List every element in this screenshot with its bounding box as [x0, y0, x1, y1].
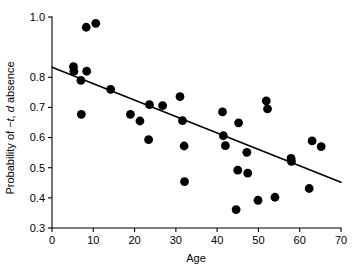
- data-point: [254, 196, 263, 205]
- y-tick-label: 0.3: [30, 222, 45, 234]
- data-points: [69, 19, 326, 214]
- y-tick-label: 1.0: [30, 11, 45, 23]
- x-tick-label: 20: [128, 234, 140, 246]
- data-point: [218, 108, 227, 117]
- data-point: [263, 105, 272, 114]
- data-point: [271, 193, 280, 202]
- data-point: [176, 92, 185, 101]
- y-tick-label: 0.7: [30, 101, 45, 113]
- data-point: [219, 131, 228, 140]
- data-point: [91, 19, 100, 28]
- data-point: [317, 142, 326, 151]
- data-point: [305, 184, 314, 193]
- data-point: [82, 23, 91, 32]
- data-point: [136, 117, 145, 126]
- data-point: [77, 110, 86, 119]
- regression-line: [52, 67, 341, 182]
- x-tick-label: 30: [170, 234, 182, 246]
- x-tick-label: 10: [87, 234, 99, 246]
- data-point: [221, 141, 230, 150]
- data-point: [82, 67, 91, 76]
- data-point: [308, 136, 317, 145]
- x-tick-label: 40: [211, 234, 223, 246]
- data-point: [262, 96, 271, 105]
- data-point: [178, 116, 187, 125]
- y-axis-title: Probability of −t, d absence: [4, 61, 16, 194]
- data-point: [180, 142, 189, 151]
- data-point: [287, 157, 296, 166]
- y-tick-label: 0.8: [30, 71, 45, 83]
- data-point: [180, 177, 189, 186]
- y-axis-tick-labels: 0.30.40.50.60.70.81.0: [30, 11, 45, 234]
- data-point: [242, 148, 251, 157]
- y-tick-label: 0.4: [30, 192, 45, 204]
- x-tick-label: 0: [49, 234, 55, 246]
- scatter-plot-figure: 0.30.40.50.60.70.81.0 010203040506070 Ag…: [0, 0, 358, 271]
- y-tick-label: 0.6: [30, 131, 45, 143]
- axes-frame: [52, 17, 341, 228]
- plot-canvas: 0.30.40.50.60.70.81.0 010203040506070 Ag…: [0, 0, 358, 271]
- data-point: [69, 67, 78, 76]
- x-axis-title: Age: [186, 252, 206, 264]
- data-point: [158, 101, 167, 110]
- fit-line: [52, 67, 341, 182]
- x-tick-label: 60: [294, 234, 306, 246]
- y-axis-ticks: [48, 17, 52, 228]
- x-tick-label: 50: [252, 234, 264, 246]
- data-point: [234, 118, 243, 127]
- data-point: [126, 110, 135, 119]
- axis-spines: [52, 17, 341, 228]
- x-axis-tick-labels: 010203040506070: [49, 234, 347, 246]
- x-axis-ticks: [52, 228, 341, 232]
- data-point: [106, 85, 115, 94]
- data-point: [144, 135, 153, 144]
- data-point: [77, 76, 86, 85]
- data-point: [232, 205, 241, 214]
- data-point: [233, 166, 242, 175]
- x-tick-label: 70: [335, 234, 347, 246]
- data-point: [145, 100, 154, 109]
- data-point: [243, 169, 252, 178]
- y-tick-label: 0.5: [30, 162, 45, 174]
